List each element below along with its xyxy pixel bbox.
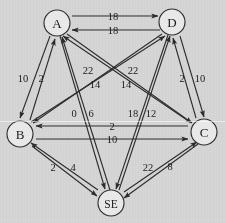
node-label-se: SE [104,198,117,210]
edge-a-to-se [60,36,105,189]
weight-d-to-b: 22 [128,65,139,76]
node-label-d: D [167,15,176,30]
edge-se-to-b [31,143,98,190]
node-se[interactable]: SE [98,190,124,216]
node-label-b: B [16,127,25,142]
weight-c-to-se: 8 [167,161,172,172]
weight-a-to-c: 22 [83,65,94,76]
edges-layer [20,16,204,198]
weight-a-to-se: 0 [71,108,76,119]
weight-b-to-se: 4 [70,162,76,173]
node-label-c: C [200,125,209,140]
nodes-layer: ADBCSE [7,9,217,216]
weight-b-to-a: 2 [38,73,43,84]
weights-layer: 18181022102214221406181221024228 [18,11,206,173]
weight-a-to-b: 10 [18,73,29,84]
weight-se-to-b: 2 [50,162,55,173]
weight-b-to-c: 10 [107,134,118,145]
graph-figure: ADBCSE 18181022102214221406181221024228 [0,0,225,223]
weight-se-to-a: 6 [88,108,93,119]
weight-c-to-d: 2 [179,73,184,84]
edge-b-to-se [32,146,97,196]
node-label-a: A [52,16,62,31]
weight-se-to-d: 12 [146,108,157,119]
weight-d-to-c: 10 [195,73,206,84]
weight-d-to-se: 18 [128,108,139,119]
weight-b-to-d: 14 [121,79,132,90]
node-b[interactable]: B [7,121,33,147]
weight-se-to-c: 22 [143,162,154,173]
edge-se-to-c [124,142,197,192]
node-c[interactable]: C [191,119,217,145]
node-d[interactable]: D [159,9,185,35]
weight-c-to-a: 14 [90,79,101,90]
node-a[interactable]: A [44,10,70,36]
weight-c-to-b: 2 [109,121,114,132]
graph-canvas: ADBCSE 18181022102214221406181221024228 [0,0,225,223]
weight-d-to-a: 18 [108,25,119,36]
weight-a-to-d: 18 [108,11,119,22]
edge-c-to-se [124,144,198,198]
